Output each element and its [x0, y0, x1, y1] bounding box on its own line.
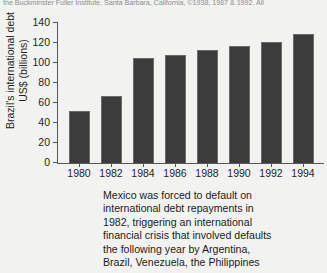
y-tick-label-140: 140 [32, 16, 50, 29]
bar-wrap [223, 23, 255, 163]
x-tick-wrap: 1984 [127, 163, 159, 177]
y-tick-label-100: 100 [32, 56, 50, 69]
x-tick-wrap: 1992 [255, 163, 287, 177]
x-axis: 1980 1982 1984 1986 1988 1990 1992 1994 [58, 163, 324, 177]
bar-1986 [165, 55, 186, 163]
figure-caption: Mexico was forced to default on internat… [103, 189, 317, 269]
y-tick-label-0: 0 [44, 156, 50, 169]
x-tick-label-1982: 1982 [99, 167, 122, 180]
copyright-line: the Buckminster Fuller Institute, Santa … [3, 0, 327, 7]
x-tick-wrap: 1982 [95, 163, 127, 177]
x-tick-label-1980: 1980 [67, 167, 90, 180]
x-tick-wrap: 1990 [223, 163, 255, 177]
y-axis-label: Brazil's international debt US$ (billion… [4, 7, 29, 135]
bar-1992 [261, 42, 282, 163]
bar-wrap [255, 23, 287, 163]
bar-wrap [159, 23, 191, 163]
caption-line: Brazil, Venezuela, the Philippines [103, 256, 317, 269]
y-tick-label-60: 60 [38, 96, 50, 109]
bar-wrap [95, 23, 127, 163]
caption-line: international debt repayments in [103, 202, 317, 215]
bar-wrap [63, 23, 95, 163]
x-tick-wrap: 1988 [191, 163, 223, 177]
bar-1982 [101, 96, 122, 163]
x-tick-label-1986: 1986 [163, 167, 186, 180]
x-tick-label-1992: 1992 [259, 167, 282, 180]
y-tick-label-120: 120 [32, 36, 50, 49]
x-tick-wrap: 1986 [159, 163, 191, 177]
bar-1990 [229, 46, 250, 163]
x-tick-label-1984: 1984 [131, 167, 154, 180]
y-tick-label-40: 40 [38, 116, 50, 129]
x-tick-wrap: 1994 [287, 163, 319, 177]
caption-line: Mexico was forced to default on [103, 189, 317, 202]
bar-1988 [197, 50, 218, 163]
x-tick-label-1990: 1990 [227, 167, 250, 180]
bar-wrap [191, 23, 223, 163]
bar-1994 [293, 34, 314, 163]
bar-wrap [127, 23, 159, 163]
plot-area: 0 20 40 60 80 100 120 140 [57, 23, 324, 164]
x-tick-wrap: 1980 [63, 163, 95, 177]
caption-line: financial crisis that involved defaults [103, 229, 317, 242]
y-tick-label-80: 80 [38, 76, 50, 89]
bar-1980 [69, 111, 90, 163]
caption-line: 1982, triggering an international [103, 216, 317, 229]
bar-1984 [133, 58, 154, 163]
x-tick-label-1994: 1994 [291, 167, 314, 180]
bar-wrap [287, 23, 319, 163]
caption-line: the following year by Argentina, [103, 243, 317, 256]
y-tick-label-20: 20 [38, 136, 50, 149]
bar-chart-figure: Brazil's international debt US$ (billion… [0, 14, 327, 180]
bar-series [58, 23, 324, 163]
x-tick-label-1988: 1988 [195, 167, 218, 180]
